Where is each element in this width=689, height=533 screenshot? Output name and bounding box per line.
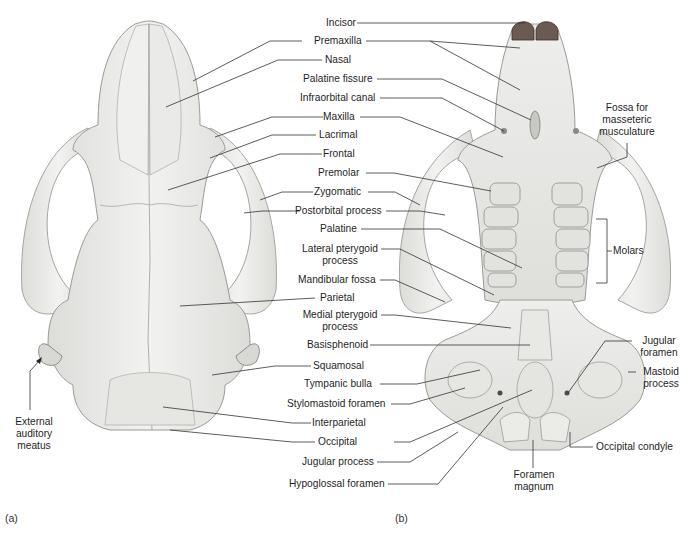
label-squamosal: Squamosal: [313, 360, 364, 372]
label-premaxilla: Premaxilla: [314, 35, 362, 47]
label-incisor: Incisor: [326, 17, 356, 29]
label-tympanic-bulla: Tympanic bulla: [304, 378, 372, 390]
label-external-auditory-meatus: External auditory meatus: [6, 416, 62, 452]
label-occipital-condyle: Occipital condyle: [596, 441, 673, 453]
label-mastoid-process: Mastoid process: [637, 366, 685, 390]
label-medial-pterygoid-process: Medial pterygoid process: [298, 309, 382, 333]
label-occipital: Occipital: [318, 436, 357, 448]
label-hypoglossal-foramen: Hypoglossal foramen: [289, 478, 385, 490]
label-foramen-magnum: Foramen magnum: [510, 469, 558, 493]
label-lacrimal: Lacrimal: [319, 129, 358, 141]
label-lateral-pterygoid-process: Lateral pterygoid process: [298, 243, 382, 267]
label-interparietal: Interparietal: [312, 417, 366, 429]
label-basisphenoid: Basisphenoid: [307, 339, 368, 351]
label-postorbital-process: Postorbital process: [295, 205, 382, 217]
label-frontal: Frontal: [323, 148, 355, 160]
label-palatine-fissure: Palatine fissure: [303, 73, 373, 85]
label-stylomastoid-foramen: Stylomastoid foramen: [287, 398, 386, 410]
label-mandibular-fossa: Mandibular fossa: [298, 274, 376, 286]
label-jugular-process: Jugular process: [302, 456, 374, 468]
skull-diagram: Incisor Premaxilla Nasal Palatine fissur…: [0, 0, 689, 533]
panel-tag-a: (a): [5, 512, 18, 524]
label-parietal: Parietal: [320, 292, 355, 304]
label-infraorbital-canal: Infraorbital canal: [300, 92, 375, 104]
label-zygomatic: Zygomatic: [314, 186, 361, 198]
ventral-skull: [399, 22, 670, 450]
label-palatine: Palatine: [320, 223, 357, 235]
label-premolar: Premolar: [318, 167, 359, 179]
label-maxilla: Maxilla: [323, 111, 355, 123]
label-fossa-masseteric-musculature: Fossa for masseteric musculature: [595, 102, 659, 138]
panel-tag-b: (b): [395, 512, 408, 524]
label-jugular-foramen: Jugular foramen: [634, 335, 684, 359]
dorsal-skull: [22, 21, 277, 430]
label-molars: Molars: [613, 245, 644, 257]
label-nasal: Nasal: [325, 54, 351, 66]
